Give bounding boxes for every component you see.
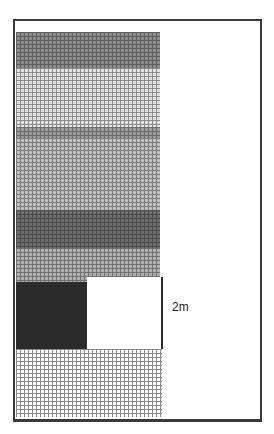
white-open-area [87, 277, 161, 349]
dimension-line [161, 277, 163, 349]
band-1-dark-gray [16, 32, 160, 68]
band-3-medium-gray-header [16, 127, 160, 138]
bottom-grid-area [16, 349, 162, 417]
band-2-light-gray [16, 68, 160, 127]
band-5-dark-gray [16, 210, 160, 248]
dimension-label: 2m [172, 300, 189, 314]
band-4-medium-gray [16, 138, 160, 210]
dark-solid-block [16, 282, 87, 349]
